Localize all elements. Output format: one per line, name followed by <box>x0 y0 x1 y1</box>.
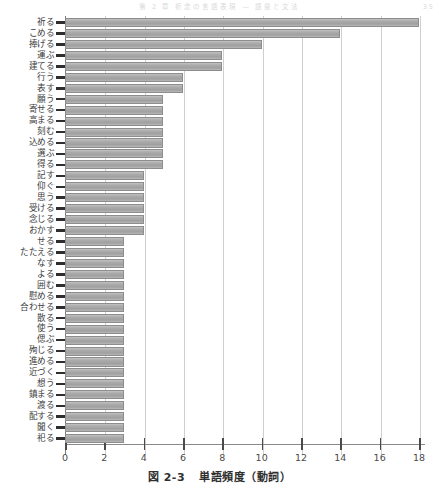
bar <box>65 40 262 49</box>
bar-row <box>65 95 163 104</box>
bar-row <box>65 149 163 158</box>
category-label-22: たたえる <box>0 248 55 257</box>
bar-row <box>65 29 340 38</box>
bar <box>65 18 419 27</box>
category-label-text: 寄せる <box>29 105 55 114</box>
bar <box>65 401 124 410</box>
category-label-36: 渡る <box>0 401 55 410</box>
x-tick-label: 12 <box>295 452 307 463</box>
y-tick <box>56 218 65 221</box>
y-tick <box>56 295 65 298</box>
category-label-text: 渡る <box>37 401 55 410</box>
category-label-text: 配する <box>29 412 55 421</box>
y-tick <box>56 229 65 232</box>
category-label-6: 行う <box>0 73 55 82</box>
bar-row <box>65 171 144 180</box>
category-label-text: 運ぶ <box>37 51 55 60</box>
y-tick <box>56 109 65 112</box>
bar-row <box>65 434 124 443</box>
y-tick <box>56 437 65 440</box>
category-label-text: 刻む <box>37 127 55 136</box>
x-tick-label: 10 <box>256 452 268 463</box>
bar-row <box>65 237 124 246</box>
y-tick <box>56 273 65 276</box>
y-tick <box>56 262 65 265</box>
y-tick <box>56 383 65 386</box>
bar-row <box>65 390 124 399</box>
gridline-14 <box>341 16 342 455</box>
bar <box>65 128 163 137</box>
bar <box>65 347 124 356</box>
category-label-2: こめる <box>0 29 55 38</box>
y-tick <box>56 394 65 397</box>
bar-row <box>65 325 124 334</box>
bar <box>65 314 124 323</box>
category-label-text: 近づく <box>29 368 55 377</box>
bar <box>65 434 124 443</box>
y-tick <box>56 54 65 57</box>
category-label-text: 使う <box>37 324 55 333</box>
category-label-25: 囲む <box>0 281 55 290</box>
bar <box>65 182 144 191</box>
category-label-text: 合わせる <box>20 303 55 312</box>
category-label-text: 捧げる <box>29 40 55 49</box>
bar <box>65 390 124 399</box>
x-tick-label: 16 <box>374 452 386 463</box>
bar-row <box>65 336 124 345</box>
bar-row <box>65 314 124 323</box>
bar-row <box>65 182 144 191</box>
bar <box>65 62 222 71</box>
category-label-text: 願う <box>37 95 55 104</box>
bar-row <box>65 303 124 312</box>
x-tick-label: 6 <box>180 452 186 463</box>
y-tick <box>56 372 65 375</box>
category-label-10: 高まる <box>0 116 55 125</box>
gridline-10 <box>263 16 264 455</box>
category-label-text: 込める <box>29 138 55 147</box>
category-label-1: 祈る <box>0 18 55 27</box>
x-tick-14 <box>340 438 342 450</box>
bar <box>65 95 163 104</box>
y-tick <box>56 186 65 189</box>
figure-title: 単語頻度（動詞） <box>199 471 291 484</box>
category-label-13: 選ぶ <box>0 149 55 158</box>
x-tick-16 <box>380 438 382 450</box>
category-label-text: こめる <box>29 29 55 38</box>
x-axis-line <box>65 444 425 445</box>
y-tick <box>56 21 65 24</box>
figure-page: 第 2 章 祈念の言語表現 — 語彙と文法 35 024681012141618… <box>0 0 439 492</box>
x-tick-12 <box>301 438 303 450</box>
y-tick <box>56 32 65 35</box>
category-label-text: 祀る <box>37 434 55 443</box>
bar-row <box>65 73 183 82</box>
category-label-text: 鎮まる <box>29 390 55 399</box>
bar <box>65 160 163 169</box>
category-label-17: 思う <box>0 193 55 202</box>
bar <box>65 292 124 301</box>
category-label-text: 思う <box>37 193 55 202</box>
bar-row <box>65 401 124 410</box>
category-label-3: 捧げる <box>0 40 55 49</box>
bar-row <box>65 412 124 421</box>
y-tick <box>56 350 65 353</box>
x-tick-label: 0 <box>62 452 68 463</box>
bar <box>65 325 124 334</box>
category-label-34: 想う <box>0 379 55 388</box>
bar <box>65 423 124 432</box>
category-label-27: 合わせる <box>0 303 55 312</box>
y-tick <box>56 76 65 79</box>
category-label-text: 得る <box>37 160 55 169</box>
figure-caption: 図 2-3 単語頻度（動詞） <box>0 468 439 484</box>
chart-plot-area <box>65 16 420 455</box>
bar <box>65 248 124 257</box>
y-tick <box>56 339 65 342</box>
category-label-text: 進める <box>29 357 55 366</box>
bar <box>65 259 124 268</box>
bar <box>65 379 124 388</box>
bar <box>65 336 124 345</box>
category-label-29: 使う <box>0 324 55 333</box>
bar-row <box>65 357 124 366</box>
x-tick-label: 2 <box>101 452 107 463</box>
bar <box>65 51 222 60</box>
bar-row <box>65 259 124 268</box>
